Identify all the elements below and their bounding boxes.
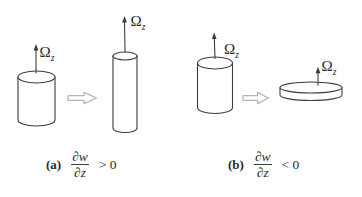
omega-arrowhead-before-a (34, 44, 39, 51)
omega-z-label-after-a: Ωz (131, 13, 146, 32)
omega-arrowhead-before-b (212, 33, 217, 40)
cylinder-after-a-top (113, 52, 137, 60)
caption-a-frac-denominator: ∂z (71, 164, 89, 180)
caption-b-fraction: ∂w ∂z (252, 149, 274, 180)
cylinder-after-a-body (113, 56, 137, 133)
caption-b-label: (b) (228, 157, 244, 173)
caption-b-relation: < 0 (282, 157, 300, 173)
caption-a-relation: > 0 (99, 157, 117, 173)
caption-a: (a) ∂w ∂z > 0 (46, 149, 117, 180)
implies-arrow-icon-a (68, 92, 97, 103)
caption-a-fraction: ∂w ∂z (69, 149, 91, 180)
omega-arrow-line-before-b (214, 38, 215, 59)
caption-b-frac-denominator: ∂z (254, 164, 272, 180)
cylinder-after-a (113, 52, 137, 133)
disk-after-b-top (280, 82, 342, 93)
caption-a-frac-numerator: ∂w (69, 149, 91, 164)
omega-z-label-before-a: Ωz (40, 44, 55, 63)
cylinder-before-b (198, 57, 233, 114)
panel-b: Ωz Ωz (198, 33, 343, 114)
panel-a: Ωz Ωz (18, 13, 146, 133)
vortex-stretching-figure: Ωz Ωz Ωz Ω (0, 0, 362, 197)
cylinder-before-a (18, 71, 55, 126)
cylinder-before-b-body (198, 63, 233, 114)
caption-b: (b) ∂w ∂z < 0 (228, 149, 299, 180)
caption-b-frac-numerator: ∂w (252, 149, 274, 164)
cylinder-before-a-body (18, 77, 55, 126)
omega-arrow-line-after-a (125, 21, 126, 52)
omega-arrowhead-after-b (316, 67, 321, 73)
omega-z-label-after-b: Ωz (322, 58, 337, 77)
caption-a-label: (a) (46, 157, 61, 173)
omega-arrowhead-after-a (122, 16, 127, 23)
implies-arrow-icon-b (243, 92, 269, 103)
omega-z-label-before-b: Ωz (224, 41, 239, 60)
disk-after-b (280, 82, 342, 101)
